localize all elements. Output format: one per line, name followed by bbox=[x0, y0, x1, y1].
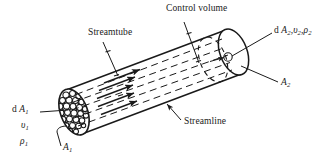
outlet-A-sub: 2 bbox=[287, 29, 290, 36]
inlet-v-sub: 1 bbox=[25, 124, 28, 131]
label-outlet-props: d A2,υ2,ρ2 bbox=[274, 26, 312, 36]
label-inlet-density: ρ1 bbox=[20, 137, 28, 147]
streamline-4 bbox=[74, 63, 230, 119]
inlet-A-sub: 1 bbox=[25, 108, 28, 115]
streamline-2 bbox=[74, 48, 226, 103]
label-area-in: A1 bbox=[63, 143, 72, 153]
inlet-rho: ρ bbox=[20, 136, 25, 146]
leader-control-volume bbox=[184, 22, 199, 63]
streamlines bbox=[72, 39, 232, 126]
label-streamtube: Streamtube bbox=[88, 28, 132, 38]
inlet-rho-sub: 1 bbox=[25, 140, 28, 147]
label-inlet-velocity: υ1 bbox=[21, 121, 29, 131]
st-tick-bottom bbox=[118, 95, 123, 97]
outlet-rho-sub: 2 bbox=[308, 29, 311, 36]
leader-streamline bbox=[167, 104, 181, 120]
cv-tick-top bbox=[187, 33, 192, 35]
streamline-3 bbox=[72, 55, 228, 110]
label-control-volume: Control volume bbox=[166, 4, 227, 14]
label-area-out: A2 bbox=[281, 78, 290, 88]
figure-streamtube-control-volume: Control volume Streamtube Streamline d A… bbox=[0, 0, 331, 164]
velocity-arrow-3 bbox=[97, 85, 133, 99]
velocity-arrow-1 bbox=[104, 70, 140, 84]
label-streamline: Streamline bbox=[184, 117, 226, 127]
outlet-v-sub: 2 bbox=[298, 29, 301, 36]
st-tick-top bbox=[106, 51, 111, 53]
leader-streamtube bbox=[103, 42, 118, 76]
outlet-v: υ bbox=[293, 25, 297, 35]
leader-area-out bbox=[241, 66, 278, 82]
streamline-1 bbox=[76, 39, 222, 95]
velocity-arrow-2 bbox=[99, 77, 135, 91]
area-in-sub: 1 bbox=[69, 146, 72, 153]
area-out-sub: 2 bbox=[287, 81, 290, 88]
cv-tick-bottom bbox=[196, 61, 201, 63]
label-inlet-dA: d A1 bbox=[12, 105, 29, 115]
